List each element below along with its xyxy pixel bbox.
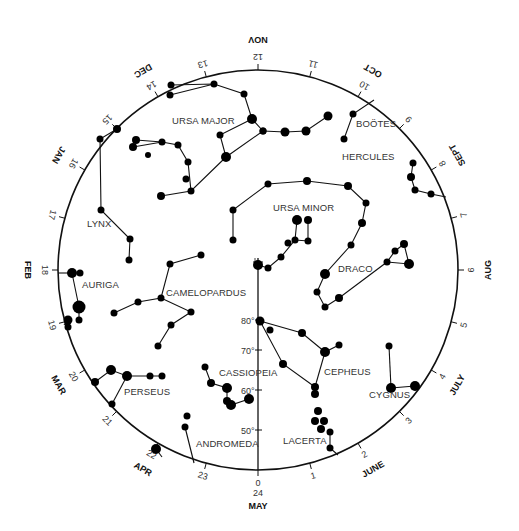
month-label-feb: FEB — [23, 261, 33, 280]
perseus-star — [159, 373, 166, 380]
hour-tick — [80, 167, 85, 170]
lacerta-star — [327, 445, 334, 452]
draco-star — [230, 237, 237, 244]
auriga-star — [73, 301, 86, 314]
andromeda-star — [151, 444, 161, 454]
camelopardus-star — [135, 299, 142, 306]
camelopardus-line — [158, 298, 191, 346]
draco-star — [335, 294, 343, 302]
star-chart-svg: 80°70°60°50° 121314151617181920212223012… — [0, 0, 519, 531]
lacerta-line — [330, 432, 338, 455]
declination-label: 50° — [241, 426, 255, 436]
hour-tick — [399, 411, 403, 415]
cepheus-line — [260, 321, 339, 352]
ursa-minor-star — [265, 265, 272, 272]
perseus-star — [91, 378, 99, 386]
lynx-label: LYNX — [87, 218, 112, 229]
auriga-star — [64, 316, 73, 325]
ursa-major-star — [188, 188, 195, 195]
ursa-minor-star — [278, 254, 285, 261]
cepheus-star — [311, 383, 319, 391]
constellation-lines — [58, 84, 446, 463]
cepheus-star — [279, 360, 287, 368]
asterism-star — [281, 128, 290, 137]
camelopardus-star — [188, 309, 195, 316]
hour-tick — [310, 463, 312, 469]
lynx-star — [97, 136, 104, 143]
hour-tick — [451, 322, 457, 324]
draco-star — [384, 259, 391, 266]
draco-line — [233, 181, 409, 307]
draco-star — [392, 248, 399, 255]
hour-tick — [451, 217, 457, 219]
hour-label: 0 — [255, 478, 260, 488]
cepheus-star — [298, 329, 306, 337]
cassiopeia-star — [226, 400, 236, 410]
cassiopeia-label: CASSIOPEIA — [219, 367, 278, 378]
ursa-major-star — [157, 192, 165, 200]
ursa-minor-star — [304, 216, 312, 224]
hercules-label: HERCULES — [342, 151, 395, 162]
hour-label: 4 — [437, 372, 448, 381]
star-chart: 80°70°60°50° 121314151617181920212223012… — [0, 0, 519, 531]
lacerta-star — [314, 407, 322, 415]
ursa-minor-star — [292, 237, 299, 244]
lynx-star — [127, 236, 134, 243]
ursa-major-star — [129, 143, 137, 151]
hour-tick — [358, 92, 361, 97]
hour-tick — [205, 71, 207, 77]
andromeda-star — [184, 413, 191, 420]
hour-label: 17 — [46, 209, 58, 221]
asterism-star — [324, 112, 333, 121]
month-label-dec: DEC — [132, 62, 154, 80]
ursa-major-star — [217, 132, 224, 139]
hour-label: 8 — [437, 159, 448, 168]
camelopardus-star — [158, 295, 165, 302]
ursa-minor-star — [253, 260, 263, 270]
draco-star — [363, 200, 370, 207]
hour-label: 2 — [360, 449, 369, 460]
draco-star — [348, 242, 355, 249]
hour-tick — [112, 411, 116, 415]
month-label-july: JULY — [447, 373, 467, 397]
month-label-sept: SEPT — [447, 142, 468, 168]
draco-star — [265, 181, 272, 188]
ursa-major-line — [136, 140, 191, 191]
hour-label: 19 — [46, 319, 58, 331]
cassiopeia-star — [207, 379, 215, 387]
cygnus-star — [386, 343, 393, 350]
perseus-label: PERSEUS — [124, 386, 170, 397]
lacerta-star — [317, 425, 325, 433]
cepheus-label: CEPHEUS — [324, 366, 371, 377]
month-label-mar: MAR — [49, 374, 68, 397]
hour-label: 16 — [67, 157, 81, 171]
bo-tes-label: BOÖTES — [356, 118, 396, 129]
ursa-major-star — [221, 152, 231, 162]
hercules-star — [428, 191, 435, 198]
cassiopeia-star — [244, 394, 254, 404]
ursa-major-star — [132, 136, 140, 144]
month-label-may: MAY — [248, 501, 267, 511]
month-label-june: JUNE — [360, 459, 386, 480]
hour-tick — [80, 370, 85, 373]
hour-label: 13 — [197, 58, 209, 70]
draco-star — [358, 219, 366, 227]
ursa-major-label: URSA MAJOR — [172, 115, 235, 126]
declination-label: 80° — [241, 316, 255, 326]
camelopardus-label: CAMELOPARDUS — [166, 287, 246, 298]
cepheus-star — [336, 342, 343, 349]
perseus-star — [122, 371, 132, 381]
lacerta-star — [320, 417, 328, 425]
lacerta-label: LACERTA — [283, 435, 327, 446]
month-label-jan: JAN — [50, 145, 68, 166]
perseus-star — [106, 365, 116, 375]
hour-tick — [431, 167, 436, 170]
lynx-star — [113, 125, 121, 133]
cygnus-star — [410, 381, 420, 391]
ursa-major-star — [168, 82, 175, 89]
hour-label: 10 — [358, 79, 372, 93]
bo-tes-star — [341, 136, 348, 143]
draco-star — [314, 289, 321, 296]
declination-label: 70° — [241, 346, 255, 356]
declination-label: 60° — [241, 386, 255, 396]
